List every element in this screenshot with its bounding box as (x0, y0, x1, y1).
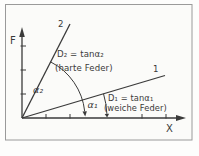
soft-spring-formula: D₁ = tanα₁ (108, 93, 153, 103)
diagram-canvas: F X 2 1 D₂ = tanα₂ (harte Feder) D₁ = ta… (0, 0, 199, 156)
hard-spring-caption: (harte Feder) (55, 63, 113, 73)
x-axis-label: X (166, 123, 173, 134)
spring-stiffness-figure: F X 2 1 D₂ = tanα₂ (harte Feder) D₁ = ta… (0, 0, 199, 156)
f-axis-label: F (10, 35, 16, 46)
soft-spring-line-label: 1 (153, 64, 159, 74)
soft-spring-caption: (weiche Feder) (104, 103, 167, 113)
hard-spring-formula: D₂ = tanα₂ (57, 49, 104, 59)
alpha1-angle-label: α₁ (88, 99, 98, 110)
alpha2-angle-label: α₂ (33, 84, 43, 95)
hard-spring-line-label: 2 (58, 19, 64, 29)
